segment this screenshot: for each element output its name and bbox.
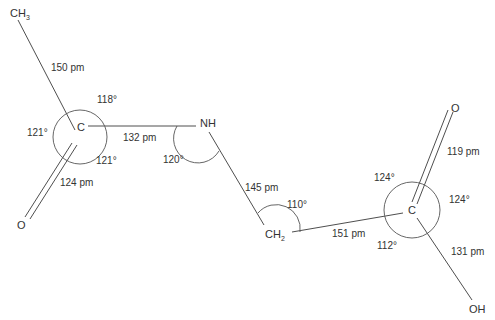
bond-length-ch3-c1: 150 pm (51, 62, 84, 73)
angle-ch2: 110° (287, 199, 307, 210)
angle-c2-right: 124° (449, 194, 470, 205)
bond-c2-o-double-b (417, 112, 453, 204)
angle-c1-left: 121° (27, 127, 48, 138)
bond-length-ch2-c2: 151 pm (332, 228, 365, 239)
angle-c2-top: 124° (374, 172, 395, 183)
angle-c1-top: 118° (97, 94, 117, 105)
bond-length-c2-oh: 131 pm (451, 246, 484, 257)
bond-length-c2-o: 119 pm (447, 146, 480, 157)
bond-length-c1-n: 132 pm (123, 132, 156, 143)
atom-c1: C (77, 121, 85, 133)
atom-ch3: CH3 (10, 7, 30, 21)
atom-nh: NH (200, 117, 216, 129)
angle-c1-bottom: 121° (96, 155, 117, 166)
peptide-geometry-diagram: CH3 C O NH CH2 C O OH 150 pm 132 pm 124 … (0, 0, 495, 320)
atom-oh: OH (469, 303, 486, 315)
atom-c2: C (408, 204, 416, 216)
atom-o2: O (451, 102, 460, 114)
bond-length-c1-o: 124 pm (60, 177, 93, 188)
bond-n-ch2 (209, 132, 264, 225)
angle-c2-bottom: 112° (377, 240, 397, 251)
bond-c2-oh (417, 218, 472, 300)
atom-o1: O (17, 219, 26, 231)
angle-n: 120° (163, 154, 184, 165)
bond-length-n-ch2: 145 pm (245, 182, 278, 193)
atom-ch2: CH2 (265, 228, 285, 242)
